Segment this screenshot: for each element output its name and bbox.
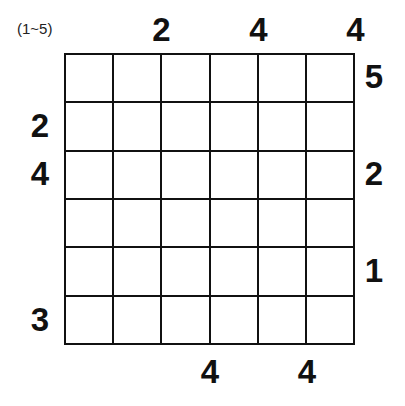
- grid-cell[interactable]: [306, 247, 354, 295]
- grid-cell[interactable]: [306, 54, 354, 102]
- grid-cell[interactable]: [161, 247, 209, 295]
- grid-cell[interactable]: [258, 151, 306, 199]
- grid-cell[interactable]: [161, 151, 209, 199]
- grid-cell[interactable]: [258, 296, 306, 344]
- grid-cell[interactable]: [65, 247, 113, 295]
- grid-cell[interactable]: [113, 247, 161, 295]
- grid-cell[interactable]: [65, 199, 113, 247]
- bottom-clue: 4: [283, 352, 331, 392]
- grid-cell[interactable]: [65, 54, 113, 102]
- left-clue: 2: [16, 106, 64, 146]
- grid-cell[interactable]: [210, 199, 258, 247]
- right-clue: 5: [350, 57, 398, 97]
- grid-cell[interactable]: [113, 199, 161, 247]
- grid-cell[interactable]: [258, 102, 306, 150]
- grid-cell[interactable]: [113, 102, 161, 150]
- grid-cell[interactable]: [306, 102, 354, 150]
- right-clue: 2: [350, 154, 398, 194]
- grid-cell[interactable]: [65, 151, 113, 199]
- grid-cell[interactable]: [210, 151, 258, 199]
- grid-cell[interactable]: [210, 247, 258, 295]
- grid-cell[interactable]: [161, 102, 209, 150]
- grid-cell[interactable]: [210, 296, 258, 344]
- grid-cell[interactable]: [258, 247, 306, 295]
- top-clue: 4: [332, 10, 380, 50]
- grid-cell[interactable]: [65, 296, 113, 344]
- grid-cell[interactable]: [258, 199, 306, 247]
- grid-cell[interactable]: [258, 54, 306, 102]
- grid-cell[interactable]: [161, 296, 209, 344]
- left-clue: 3: [16, 300, 64, 340]
- left-clue: 4: [16, 154, 64, 194]
- range-label: (1~5): [17, 20, 52, 37]
- grid-cell[interactable]: [306, 199, 354, 247]
- grid-cell[interactable]: [306, 296, 354, 344]
- grid-cell[interactable]: [210, 54, 258, 102]
- grid-cell[interactable]: [113, 151, 161, 199]
- bottom-clue: 4: [186, 352, 234, 392]
- grid-cell[interactable]: [65, 102, 113, 150]
- grid-cell[interactable]: [306, 151, 354, 199]
- puzzle-grid: [64, 53, 355, 345]
- grid-cell[interactable]: [161, 54, 209, 102]
- top-clue: 2: [138, 10, 186, 50]
- right-clue: 1: [350, 251, 398, 291]
- top-clue: 4: [235, 10, 283, 50]
- grid-cell[interactable]: [113, 296, 161, 344]
- grid-cell[interactable]: [161, 199, 209, 247]
- grid-cell[interactable]: [113, 54, 161, 102]
- grid-cell[interactable]: [210, 102, 258, 150]
